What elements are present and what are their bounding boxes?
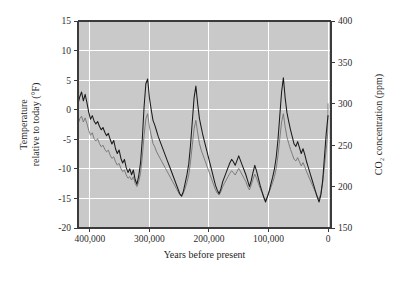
y-tick-label: 15 xyxy=(62,16,72,26)
y2-tick-label: 200 xyxy=(338,182,353,192)
y2-tick-label: 250 xyxy=(338,141,353,151)
x-tick-label: 100,000 xyxy=(253,234,284,244)
x-tick-label: 400,000 xyxy=(74,234,105,244)
y-tick-label: 5 xyxy=(66,76,71,86)
y-tick-label: 0 xyxy=(66,105,71,115)
y2-tick-label: 400 xyxy=(338,16,353,26)
y2-tick-label: 350 xyxy=(338,58,353,68)
y-tick-label: -20 xyxy=(58,223,71,233)
paleoclimate-line-chart: 151050-5-10-15-20400350300250200150400,0… xyxy=(0,0,400,281)
x-axis-title: Years before present xyxy=(164,249,246,260)
y-tick-label: -10 xyxy=(58,164,71,174)
y-tick-label: -5 xyxy=(63,135,71,145)
y-tick-label: -15 xyxy=(58,194,71,204)
y2-axis-title: CO₂ concentration (ppm) xyxy=(373,74,385,175)
y2-tick-label: 150 xyxy=(338,223,353,233)
y2-tick-label: 300 xyxy=(338,99,353,109)
plot-area-background xyxy=(78,21,331,228)
x-tick-label: 300,000 xyxy=(134,234,165,244)
y-tick-label: 10 xyxy=(62,46,72,56)
figure-container: 151050-5-10-15-20400350300250200150400,0… xyxy=(0,0,400,281)
x-tick-label: 0 xyxy=(326,234,331,244)
x-tick-label: 200,000 xyxy=(194,234,225,244)
